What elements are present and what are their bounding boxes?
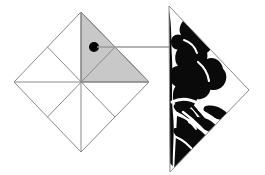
figure-root: Folded-paper cut-out diagram	[0, 0, 265, 175]
left-shape-group[interactable]	[14, 12, 149, 152]
figure-canvas: Folded-paper cut-out diagram	[0, 0, 265, 175]
right-shape-group[interactable]	[169, 6, 249, 172]
